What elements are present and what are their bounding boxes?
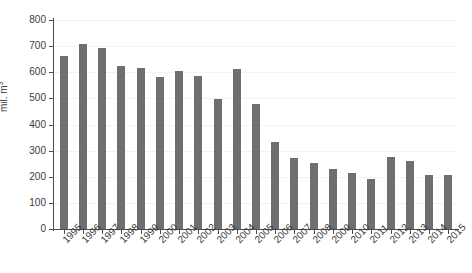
y-tick-label-text: 200: [2, 172, 46, 182]
plot-area: [54, 20, 458, 229]
bar: [271, 142, 279, 229]
bar: [117, 66, 125, 229]
y-tick-label-text: 600: [2, 67, 46, 77]
bar: [175, 71, 183, 229]
bar: [329, 169, 337, 229]
y-tick-label: 800: [0, 15, 46, 25]
bar: [137, 68, 145, 229]
gridline: [54, 46, 458, 47]
bar: [194, 76, 202, 229]
y-tick-label: 200: [0, 172, 46, 182]
bar: [252, 104, 260, 229]
bar: [98, 48, 106, 229]
y-tick-label-text: 100: [2, 198, 46, 208]
bar-chart: mil. m3 0100200300400500600700800 199519…: [0, 0, 472, 273]
y-tick-label: 500: [0, 93, 46, 103]
bar: [233, 69, 241, 229]
y-tick-label-text: 800: [2, 15, 46, 25]
bar: [348, 173, 356, 229]
bar: [156, 77, 164, 229]
y-tick-label-text: 0: [2, 224, 46, 234]
y-tick-label: 100: [0, 198, 46, 208]
bar: [290, 158, 298, 229]
gridline: [54, 20, 458, 21]
y-tick-label: 700: [0, 41, 46, 51]
bar: [425, 175, 433, 229]
bar: [79, 44, 87, 229]
y-tick-label: 600: [0, 67, 46, 77]
y-tick-label: 0: [0, 224, 46, 234]
y-tick-label: 300: [0, 146, 46, 156]
bar: [367, 179, 375, 229]
bar: [310, 163, 318, 229]
y-tick-label-text: 300: [2, 146, 46, 156]
gridline: [54, 98, 458, 99]
bar: [406, 161, 414, 229]
gridline: [54, 72, 458, 73]
y-tick-label-text: 400: [2, 120, 46, 130]
bar: [387, 157, 395, 229]
y-tick-label-text: 700: [2, 41, 46, 51]
y-tick-label-text: 500: [2, 93, 46, 103]
y-tick-label: 400: [0, 120, 46, 130]
bar: [60, 56, 68, 229]
y-tick-mark: [49, 229, 54, 230]
bar: [444, 175, 452, 229]
bar: [214, 99, 222, 229]
